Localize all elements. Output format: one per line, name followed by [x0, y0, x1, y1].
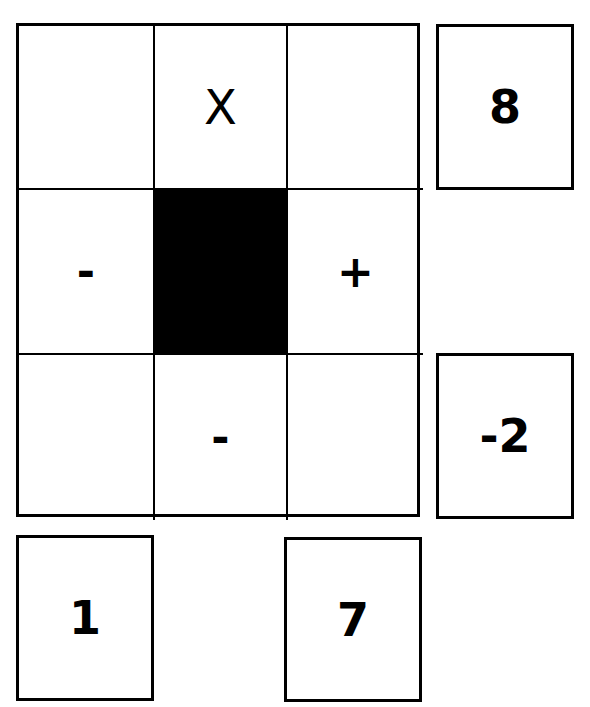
minus-sign: -	[211, 412, 229, 463]
grid-cell-r1-c0: -	[19, 190, 155, 355]
number-box-bottom-right: 7	[284, 537, 422, 702]
plus-sign: +	[337, 246, 374, 297]
puzzle-grid: X - + -	[16, 23, 420, 517]
x-mark: X	[204, 79, 237, 135]
grid-cell-r0-c2	[288, 26, 423, 190]
number-box-right-bottom: -2	[436, 353, 574, 519]
grid-cell-r0-c1: X	[155, 26, 288, 190]
grid-cell-r2-c2	[288, 355, 423, 520]
grid-cell-r0-c0	[19, 26, 155, 190]
grid-cell-r2-c0	[19, 355, 155, 520]
grid-cell-r1-c2: +	[288, 190, 423, 355]
grid-cell-r1-c1-filled	[155, 190, 288, 355]
minus-sign: -	[77, 246, 95, 297]
grid-cell-r2-c1: -	[155, 355, 288, 520]
number-box-bottom-left: 1	[16, 535, 154, 701]
number-box-right-top: 8	[436, 24, 574, 190]
